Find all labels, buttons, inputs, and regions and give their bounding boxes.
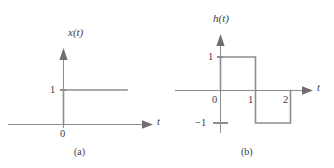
- step-signal-a: [64, 90, 128, 125]
- y-axis-arrowhead-b: [216, 34, 224, 46]
- figure-container: x(t) 1 0 t (a) h(t) 1 −1 0 1: [0, 0, 334, 168]
- panel-a-xlabel: t: [157, 117, 160, 128]
- panel-b-origin-label: 0: [212, 95, 217, 106]
- panel-b-ytick-neg1: −1: [195, 118, 206, 129]
- panel-b-xtick-2: 2: [283, 95, 288, 106]
- panel-b-xtick-1: 1: [248, 95, 253, 106]
- x-axis-arrowhead-b: [302, 86, 313, 95]
- panel-b-caption: (b): [241, 147, 253, 157]
- panel-a-ylabel: x(t): [68, 27, 83, 38]
- panel-b-ytick-1: 1: [208, 52, 213, 63]
- y-axis-arrowhead-a: [59, 48, 67, 60]
- panel-a-ytick-1: 1: [50, 85, 55, 96]
- panel-b-ylabel: h(t): [213, 13, 229, 24]
- panel-a-origin-label: 0: [60, 129, 65, 140]
- panel-a-plot: [0, 0, 167, 168]
- panel-b-xlabel: t: [317, 83, 320, 94]
- x-axis-arrowhead-a: [142, 120, 153, 129]
- panel-a-caption: (a): [74, 147, 85, 157]
- panel-b-plot: [167, 0, 334, 168]
- panel-b: h(t) 1 −1 0 1 2 t (b): [167, 0, 334, 168]
- panel-a: x(t) 1 0 t (a): [0, 0, 167, 168]
